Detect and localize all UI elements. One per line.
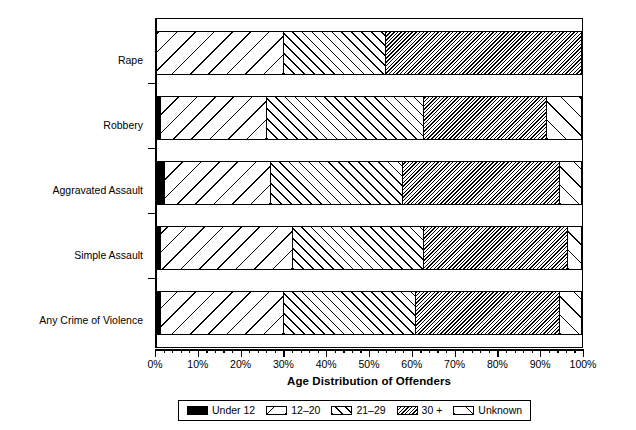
x-axis-minor-tick [223,349,224,353]
x-axis-tick-label: 80% [487,358,508,370]
legend-label: Under 12 [212,405,255,416]
x-axis-minor-tick [266,349,267,353]
x-axis-minor-tick [292,349,293,353]
x-axis-tick-label: 90% [530,358,551,370]
x-axis-minor-tick [360,349,361,353]
x-axis-tick-label: 30% [273,358,294,370]
legend-swatch-icon [266,406,287,415]
x-axis-minor-tick [463,349,464,353]
x-axis-minor-tick [437,349,438,353]
x-axis-minor-tick [343,349,344,353]
x-axis-minor-tick [403,349,404,353]
x-axis-minor-tick [480,349,481,353]
bar-segment-unknown [560,162,581,204]
legend-label: 12–20 [291,405,320,416]
y-axis-tick [148,83,156,84]
x-axis-major-tick [241,349,242,357]
legend-item-under-12: Under 12 [187,405,255,416]
bar-segment-12-20 [161,97,267,139]
bar-segment-30 [386,32,581,74]
bar-segment-12-20 [157,32,284,74]
bar-segment-21-29 [284,32,386,74]
legend-item-21-29: 21–29 [331,405,385,416]
y-axis-tick [148,213,156,214]
legend-item-unknown: Unknown [453,405,522,416]
x-axis-minor-tick [309,349,310,353]
bar-segment-21-29 [284,292,415,334]
bar-row-aggravated-assault [156,161,582,205]
x-axis-tick-label: 100% [570,358,597,370]
legend-label: 30 + [422,405,443,416]
x-axis-minor-tick [189,349,190,353]
x-axis-minor-tick [446,349,447,353]
x-axis-minor-tick [566,349,567,353]
bar-segment-under-12 [157,162,165,204]
y-axis-label-robbery: Robbery [103,119,143,131]
legend-item-30: 30 + [397,405,443,416]
x-axis-title: Age Distribution of Offenders [155,375,583,387]
x-axis-major-tick [540,349,541,357]
chart-legend: Under 1212–2021–2930 +Unknown [178,400,531,421]
x-axis-minor-tick [574,349,575,353]
x-axis-minor-tick [258,349,259,353]
bar-segment-12-20 [161,292,284,334]
y-axis-label-any-crime-of-violence: Any Crime of Violence [39,314,143,326]
x-axis-major-tick [583,349,584,357]
x-axis-minor-tick [386,349,387,353]
bar-segment-21-29 [271,162,402,204]
bar-row-robbery [156,96,582,140]
x-axis-minor-tick [429,349,430,353]
stacked-bar [156,96,582,140]
bar-segment-12-20 [165,162,271,204]
x-axis-major-tick [326,349,327,357]
bar-segment-30 [424,227,568,269]
legend-label: 21–29 [356,405,385,416]
x-axis-tick-label: 10% [187,358,208,370]
x-axis-minor-tick [301,349,302,353]
y-axis-labels: Rape Robbery Aggravated Assault Simple A… [0,0,143,430]
x-axis-minor-tick [164,349,165,353]
bar-segment-30 [424,97,547,139]
x-axis-minor-tick [378,349,379,353]
x-axis-major-tick [369,349,370,357]
x-axis-minor-tick [275,349,276,353]
bar-row-any-crime-of-violence [156,291,582,335]
x-axis-minor-tick [206,349,207,353]
x-axis-minor-tick [181,349,182,353]
x-axis-minor-tick [335,349,336,353]
bar-segment-21-29 [293,227,424,269]
x-axis-minor-tick [420,349,421,353]
x-axis-minor-tick [318,349,319,353]
legend-item-12-20: 12–20 [266,405,320,416]
y-axis-label-simple-assault: Simple Assault [74,249,143,261]
x-axis-major-tick [455,349,456,357]
bar-segment-30 [403,162,560,204]
x-axis-tick-label: 70% [444,358,465,370]
x-axis-minor-tick [395,349,396,353]
stacked-bar [156,161,582,205]
legend-swatch-icon [397,406,418,415]
bar-segment-unknown [560,292,581,334]
bar-row-simple-assault [156,226,582,270]
legend-label: Unknown [478,405,522,416]
x-axis-minor-tick [506,349,507,353]
plot-area [155,18,583,348]
x-axis-minor-tick [515,349,516,353]
bar-segment-30 [416,292,560,334]
x-axis-tick-label: 40% [316,358,337,370]
x-axis-minor-tick [215,349,216,353]
x-axis-major-tick [198,349,199,357]
x-axis-minor-tick [532,349,533,353]
stacked-bar [156,226,582,270]
y-axis-tick [148,278,156,279]
bar-segment-unknown [568,227,581,269]
stacked-bar [156,291,582,335]
y-axis-line [155,18,157,348]
bar-segment-unknown [547,97,581,139]
x-axis-major-tick [412,349,413,357]
legend-swatch-icon [331,406,352,415]
x-axis-minor-tick [232,349,233,353]
x-axis-major-tick [155,349,156,357]
x-axis-minor-tick [489,349,490,353]
bar-segment-12-20 [161,227,292,269]
